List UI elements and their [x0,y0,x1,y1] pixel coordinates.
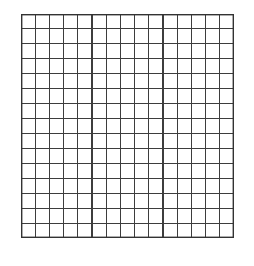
grid-background [21,14,234,238]
square-grid-figure [21,14,234,238]
grid-svg [21,14,234,238]
page-canvas [0,0,254,266]
